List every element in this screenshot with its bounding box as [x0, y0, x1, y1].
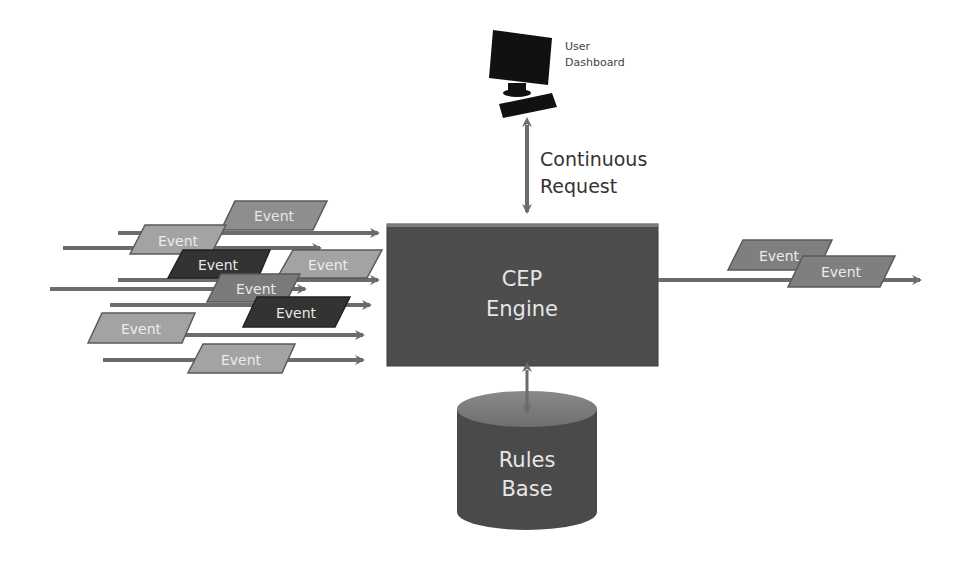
svg-text:Event: Event [308, 257, 349, 273]
svg-text:Event: Event [236, 281, 277, 297]
computer-icon [489, 30, 557, 118]
cep-diagram: User Dashboard Continuous Request Event … [0, 0, 975, 571]
rules-base-label-1: Rules [499, 448, 556, 472]
svg-text:Event: Event [198, 257, 239, 273]
user-dashboard-label-1: User [565, 40, 591, 53]
input-event-8: Event [188, 344, 295, 373]
continuous-request-label-2: Request [540, 175, 617, 197]
cep-engine: CEP Engine [387, 224, 658, 366]
cep-engine-label-2: Engine [486, 297, 558, 321]
output-event-2: Event [788, 256, 895, 287]
input-event-1: Event [221, 201, 327, 230]
svg-text:Event: Event [221, 352, 262, 368]
user-dashboard-label-2: Dashboard [565, 56, 625, 69]
svg-text:Event: Event [121, 321, 162, 337]
svg-text:Event: Event [276, 305, 317, 321]
svg-text:Event: Event [821, 264, 862, 280]
rules-base-label-2: Base [501, 477, 552, 501]
svg-text:Event: Event [254, 208, 295, 224]
cep-engine-label-1: CEP [502, 267, 543, 291]
svg-text:Event: Event [759, 248, 800, 264]
continuous-request-label-1: Continuous [540, 148, 647, 170]
input-event-6: Event [243, 297, 350, 327]
svg-text:Event: Event [158, 233, 199, 249]
input-event-7: Event [88, 313, 195, 343]
